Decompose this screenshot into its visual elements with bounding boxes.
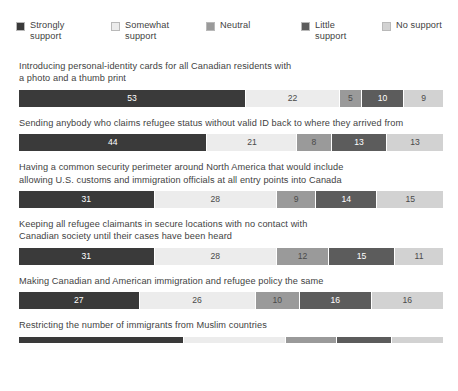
chart-row-bar: 3128121511 [19, 248, 443, 265]
bar-segment-little: 15 [329, 248, 395, 265]
chart-row: Sending anybody who claims refugee statu… [0, 117, 458, 151]
bar-segment-strongly: 39 [19, 337, 184, 343]
chart-row-label: Introducing personal-identity cards for … [0, 60, 458, 85]
chart-row-bar: 312891415 [19, 191, 443, 208]
legend-swatch-little-support [301, 22, 310, 31]
bar-segment-somewhat: 22 [246, 90, 340, 107]
chart-row-bar: 2726101616 [19, 292, 443, 309]
bar-segment-somewhat: 28 [155, 248, 277, 265]
bar-segment-value: 53 [127, 94, 137, 103]
bar-segment-value: 9 [294, 195, 299, 204]
legend-item-somewhat: Somewhat support [111, 20, 169, 43]
chart-row: Introducing personal-identity cards for … [0, 60, 458, 107]
chart-row: Having a common security perimeter aroun… [0, 161, 458, 208]
chart-row-label: Making Canadian and American immigration… [0, 275, 458, 287]
bar-segment-neutral: 8 [297, 134, 331, 151]
chart-row-label: Restricting the number of immigrants fro… [0, 319, 458, 331]
legend-item-little: Little support [301, 20, 346, 43]
bar-segment-value: 16 [331, 296, 341, 305]
bar-segment-little: 13 [332, 134, 388, 151]
bar-segment-nosupport: 15 [377, 191, 443, 208]
bar-segment-value: 13 [354, 138, 364, 147]
bar-segment-strongly: 31 [19, 248, 155, 265]
bar-segment-value: 12 [298, 252, 308, 261]
chart-legend: Strongly supportSomewhat supportNeutralL… [0, 20, 458, 56]
bar-segment-strongly: 53 [19, 90, 246, 107]
bar-segment-value: 16 [402, 296, 412, 305]
bar-segment-value: 44 [108, 138, 118, 147]
legend-label-somewhat: Somewhat support [125, 20, 169, 43]
legend-swatch-strongly-support [16, 22, 25, 31]
chart-row-label: Having a common security perimeter aroun… [0, 161, 458, 186]
bar-segment-neutral: 9 [277, 191, 316, 208]
chart-row: Restricting the number of immigrants fro… [0, 319, 458, 342]
bar-segment-nosupport: 9 [404, 90, 443, 107]
bar-segment-value: 15 [357, 252, 367, 261]
bar-segment-value: 27 [74, 296, 84, 305]
bar-segment-neutral: 12 [286, 337, 337, 343]
legend-item-strongly: Strongly support [16, 20, 64, 43]
bar-segment-value: 31 [81, 195, 91, 204]
bar-segment-somewhat: 28 [155, 191, 277, 208]
bar-segment-value: 28 [210, 195, 220, 204]
bar-segment-value: 15 [405, 195, 415, 204]
stacked-bar-chart: Strongly supportSomewhat supportNeutralL… [0, 0, 458, 391]
bar-segment-somewhat: 24 [184, 337, 286, 343]
bar-segment-somewhat: 26 [140, 292, 256, 309]
bar-segment-nosupport: 11 [395, 248, 443, 265]
bar-segment-value: 21 [247, 138, 257, 147]
bar-segment-nosupport: 16 [372, 292, 443, 309]
bar-segment-somewhat: 21 [207, 134, 297, 151]
legend-label-strongly: Strongly support [30, 20, 64, 43]
bar-segment-value: 26 [192, 296, 202, 305]
bar-segment-value: 5 [348, 94, 353, 103]
bar-segment-neutral: 5 [340, 90, 361, 107]
bar-segment-neutral: 10 [256, 292, 301, 309]
legend-label-little: Little support [315, 20, 346, 43]
bar-segment-strongly: 31 [19, 191, 155, 208]
legend-label-nosupport: No support [396, 20, 442, 31]
bar-segment-little: 10 [362, 90, 405, 107]
bar-segment-little: 16 [300, 292, 371, 309]
bar-segment-value: 10 [273, 296, 283, 305]
legend-label-neutral: Neutral [220, 20, 250, 31]
bar-segment-neutral: 12 [277, 248, 329, 265]
legend-swatch-somewhat-support [111, 22, 120, 31]
bar-segment-little: 14 [316, 191, 377, 208]
chart-row-bar: 53225109 [19, 90, 443, 107]
chart-row-label: Sending anybody who claims refugee statu… [0, 117, 458, 129]
bar-segment-value: 8 [312, 138, 317, 147]
chart-row-bar: 442181313 [19, 134, 443, 151]
bar-segment-value: 9 [421, 94, 426, 103]
bar-segment-strongly: 27 [19, 292, 140, 309]
chart-row: Making Canadian and American immigration… [0, 275, 458, 309]
legend-item-neutral: Neutral [206, 20, 250, 31]
bar-segment-nosupport: 12 [392, 337, 443, 343]
bar-segment-strongly: 44 [19, 134, 207, 151]
chart-row-label: Keeping all refugee claimants in secure … [0, 218, 458, 243]
bar-segment-value: 28 [210, 252, 220, 261]
bar-segment-value: 31 [81, 252, 91, 261]
bar-segment-value: 14 [342, 195, 352, 204]
chart-row: Keeping all refugee claimants in secure … [0, 218, 458, 265]
chart-row-bar: 3924121312 [19, 337, 443, 343]
bar-segment-nosupport: 13 [387, 134, 443, 151]
bar-segment-value: 22 [288, 94, 298, 103]
legend-swatch-no-support [382, 22, 391, 31]
bar-segment-value: 10 [378, 94, 388, 103]
bar-segment-little: 13 [337, 337, 392, 343]
legend-swatch-neutral [206, 22, 215, 31]
bar-segment-value: 13 [410, 138, 420, 147]
legend-item-nosupport: No support [382, 20, 442, 31]
chart-rows: Introducing personal-identity cards for … [0, 60, 458, 353]
bar-segment-value: 11 [414, 252, 423, 261]
